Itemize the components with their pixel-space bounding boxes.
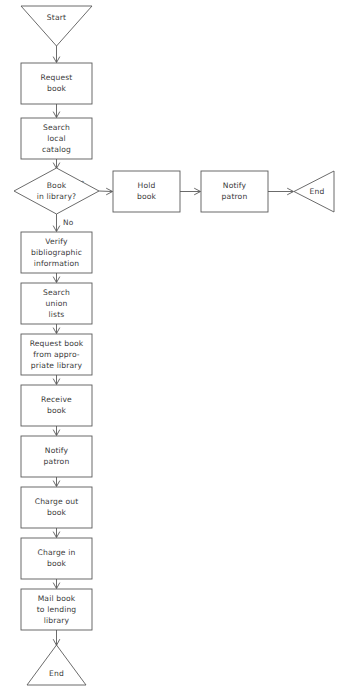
node-search-union-lists[interactable]: Search union lists <box>21 283 92 324</box>
edge-label-no: No <box>63 218 74 227</box>
node-label-end-bottom: End <box>49 669 64 678</box>
node-label-end-right: End <box>310 187 325 196</box>
connector-request-book-to-search-local-catalog <box>53 104 60 118</box>
node-label-request-from-library-line3: priate library <box>31 361 83 370</box>
node-charge-in-book[interactable]: Charge in book <box>21 538 92 579</box>
node-label-charge-out-line1: Charge out <box>35 497 79 506</box>
start-triangle-shape <box>21 6 92 46</box>
node-label-book-in-library-line2: in library? <box>37 192 76 201</box>
node-label-book-in-library-line1: Book <box>47 181 67 190</box>
connector-receive-book-to-notify-patron-loan <box>53 426 60 436</box>
end-bottom-triangle-shape <box>27 645 86 685</box>
node-label-request-book-line2: book <box>47 84 67 93</box>
node-notify-patron-hold[interactable]: Notify patron <box>201 171 268 212</box>
node-label-charge-out-line2: book <box>47 508 67 517</box>
node-request-book[interactable]: Request book <box>21 63 92 104</box>
connector-notify-patron-loan-to-charge-out-book <box>53 477 60 487</box>
node-label-verify-line3: information <box>34 259 80 268</box>
node-label-search-union-line3: lists <box>49 310 65 319</box>
node-label-request-from-library-line1: Request book <box>30 339 84 348</box>
node-label-notify-patron-hold-line1: Notify <box>223 181 247 190</box>
node-label-notify-patron-loan-line2: patron <box>44 457 70 466</box>
node-search-local-catalog[interactable]: Search local catalog <box>21 118 92 159</box>
node-receive-book[interactable]: Receive book <box>21 385 92 426</box>
decision-diamond-shape <box>14 168 99 214</box>
connector-verify-to-search-union-lists <box>53 273 60 283</box>
node-verify-bibliographic[interactable]: Verify bibliographic information <box>21 232 92 273</box>
connector-notify-patron-to-end-right <box>268 188 294 195</box>
node-label-search-union-line2: union <box>46 299 68 308</box>
node-book-in-library-decision[interactable]: Book in library? <box>14 168 99 214</box>
node-end-right[interactable]: End <box>294 171 334 212</box>
node-hold-book[interactable]: Hold book <box>113 171 180 212</box>
connector-charge-in-book-to-mail-book <box>53 579 60 589</box>
node-label-request-book-line1: Request <box>41 73 73 82</box>
node-label-notify-patron-loan-line1: Notify <box>45 446 69 455</box>
node-label-receive-book-line2: book <box>47 406 67 415</box>
node-charge-out-book[interactable]: Charge out book <box>21 487 92 528</box>
connector-start-to-request-book <box>53 46 60 63</box>
node-mail-book[interactable]: Mail book to lending library <box>21 589 92 630</box>
connector-request-from-library-to-receive-book <box>53 375 60 385</box>
node-label-request-from-library-line2: from appro- <box>33 350 80 359</box>
connector-mail-book-to-end-bottom <box>53 630 60 645</box>
connector-search-local-catalog-to-decision <box>53 159 60 169</box>
node-label-notify-patron-hold-line2: patron <box>222 192 248 201</box>
connector-charge-out-book-to-charge-in-book <box>53 528 60 538</box>
node-label-search-local-catalog-line2: local <box>47 134 65 143</box>
node-label-charge-in-line2: book <box>47 559 67 568</box>
node-label-search-local-catalog-line1: Search <box>43 123 70 132</box>
node-label-search-union-line1: Search <box>43 288 70 297</box>
connector-search-union-lists-to-request-from-library <box>53 324 60 334</box>
node-label-hold-book-line2: book <box>137 192 157 201</box>
node-label-verify-line2: bibliographic <box>31 248 82 257</box>
node-label-mail-book-line2: to lending <box>37 605 77 614</box>
connector-hold-book-to-notify-patron <box>180 188 201 195</box>
node-label-receive-book-line1: Receive <box>41 395 72 404</box>
node-notify-patron-loan[interactable]: Notify patron <box>21 436 92 477</box>
node-label-mail-book-line1: Mail book <box>38 594 76 603</box>
node-end-bottom[interactable]: End <box>27 645 86 685</box>
flowchart-canvas: Yes No Start Request book Search local c… <box>0 0 343 700</box>
connector-decision-to-verify-bibliographic <box>53 214 60 232</box>
node-label-charge-in-line1: Charge in <box>38 548 76 557</box>
node-request-from-library[interactable]: Request book from appro- priate library <box>21 334 92 375</box>
node-label-verify-line1: Verify <box>45 237 68 246</box>
node-label-search-local-catalog-line3: catalog <box>42 145 71 154</box>
connector-decision-to-hold-book <box>99 188 113 195</box>
node-start[interactable]: Start <box>21 6 92 46</box>
node-label-mail-book-line3: library <box>44 616 70 625</box>
node-label-hold-book-line1: Hold <box>138 181 156 190</box>
node-label-start: Start <box>47 13 66 22</box>
flowchart-container: Yes No Start Request book Search local c… <box>0 0 343 700</box>
